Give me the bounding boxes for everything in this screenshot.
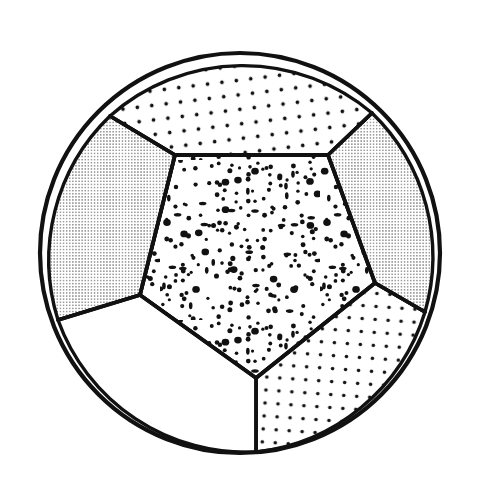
sphere-diagram — [0, 0, 477, 498]
figure-root — [0, 0, 477, 498]
faces-layer — [49, 66, 433, 453]
